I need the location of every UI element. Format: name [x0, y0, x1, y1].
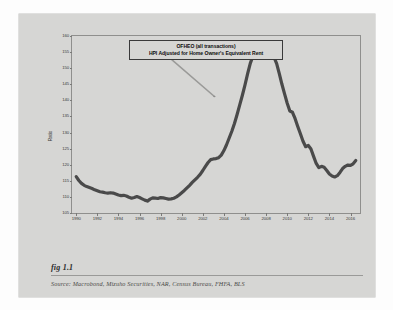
y-tick-label-140: 140	[62, 98, 69, 102]
x-tick-label-2000: 2000	[177, 217, 186, 221]
legend-line-1: OFHEO (all transactions)	[133, 43, 279, 50]
y-tick-mark-140	[70, 100, 73, 101]
x-tick-mark-1990	[76, 213, 77, 216]
x-tick-label-1996: 1996	[135, 217, 144, 221]
y-tick-label-135: 135	[62, 114, 69, 118]
y-tick-mark-125	[70, 149, 73, 150]
y-tick-label-160: 160	[62, 34, 69, 38]
x-tick-mark-2016	[351, 213, 352, 216]
x-tick-label-2008: 2008	[262, 217, 271, 221]
y-tick-mark-120	[70, 165, 73, 166]
y-tick-label-115: 115	[62, 179, 69, 183]
y-tick-mark-160	[70, 36, 73, 37]
x-tick-label-2014: 2014	[325, 217, 334, 221]
series-path-ofheo-hpi	[76, 50, 356, 201]
chart-container: Ratio OFHEO (all transactions) HPI Adjus…	[51, 33, 361, 238]
x-tick-mark-2014	[329, 213, 330, 216]
x-tick-mark-1996	[140, 213, 141, 216]
y-tick-mark-110	[70, 197, 73, 198]
y-tick-label-110: 110	[62, 195, 69, 199]
x-tick-label-2010: 2010	[283, 217, 292, 221]
x-tick-label-2012: 2012	[304, 217, 313, 221]
y-tick-mark-105	[70, 213, 73, 214]
x-tick-mark-2012	[308, 213, 309, 216]
x-tick-label-2002: 2002	[198, 217, 207, 221]
x-tick-mark-2010	[287, 213, 288, 216]
x-tick-label-2016: 2016	[346, 217, 355, 221]
y-tick-mark-145	[70, 84, 73, 85]
plot-frame: OFHEO (all transactions) HPI Adjusted fo…	[71, 35, 361, 214]
source-line: Source: Macrobond, Mizuho Securities, NA…	[51, 280, 363, 287]
y-tick-label-105: 105	[62, 211, 69, 215]
x-tick-mark-2008	[266, 213, 267, 216]
y-tick-label-125: 125	[62, 146, 69, 150]
y-axis-label: Ratio	[48, 130, 53, 141]
caption-divider	[51, 275, 363, 276]
legend-box: OFHEO (all transactions) HPI Adjusted fo…	[129, 40, 283, 60]
legend-line-2: HPI Adjusted for Home Owner's Equivalent…	[133, 50, 279, 57]
x-tick-mark-2004	[224, 213, 225, 216]
x-tick-label-2004: 2004	[219, 217, 228, 221]
series-line-chart	[72, 36, 360, 213]
x-tick-label-1998: 1998	[156, 217, 165, 221]
page-canvas: Ratio OFHEO (all transactions) HPI Adjus…	[0, 0, 393, 310]
x-tick-mark-2006	[245, 213, 246, 216]
y-tick-label-155: 155	[62, 50, 69, 54]
y-tick-mark-130	[70, 133, 73, 134]
x-tick-label-1990: 1990	[72, 217, 81, 221]
figure-label: fig 1.1	[51, 263, 363, 272]
y-tick-mark-135	[70, 116, 73, 117]
y-tick-label-145: 145	[62, 82, 69, 86]
x-tick-mark-2002	[203, 213, 204, 216]
source-text: Macrobond, Mizuho Securities, NAR, Censu…	[73, 280, 245, 287]
y-tick-label-130: 130	[62, 130, 69, 134]
caption-block: fig 1.1 Source: Macrobond, Mizuho Securi…	[51, 263, 363, 287]
x-tick-mark-2000	[182, 213, 183, 216]
x-tick-label-1994: 1994	[114, 217, 123, 221]
y-tick-label-120: 120	[62, 163, 69, 167]
y-tick-mark-155	[70, 52, 73, 53]
x-tick-label-1992: 1992	[93, 217, 102, 221]
x-tick-label-2006: 2006	[240, 217, 249, 221]
x-tick-mark-1994	[118, 213, 119, 216]
figure-sheet: Ratio OFHEO (all transactions) HPI Adjus…	[19, 14, 375, 297]
source-prefix: Source:	[51, 280, 71, 287]
y-tick-mark-115	[70, 181, 73, 182]
x-tick-mark-1992	[97, 213, 98, 216]
y-tick-label-150: 150	[62, 66, 69, 70]
x-tick-mark-1998	[161, 213, 162, 216]
y-tick-mark-150	[70, 68, 73, 69]
